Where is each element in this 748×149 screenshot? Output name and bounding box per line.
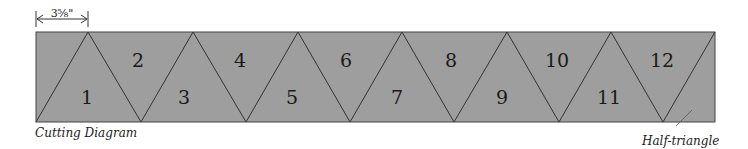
piece-label: 11: [597, 86, 621, 108]
half-triangle-label: Half-triangle: [641, 134, 719, 148]
piece-label: 10: [545, 49, 569, 71]
piece-label: 2: [132, 49, 144, 71]
piece-label: 5: [286, 86, 298, 108]
piece-label: 7: [391, 86, 403, 108]
dimension-label: 3⅝": [51, 7, 74, 20]
dimension-marker: 3⅝": [36, 7, 88, 27]
cutting-diagram: 3⅝" 123456789101112 Half-triangle Cuttin…: [0, 0, 748, 149]
piece-label: 12: [650, 49, 674, 71]
piece-label: 1: [81, 86, 93, 108]
piece-label: 9: [496, 86, 508, 108]
piece-label: 3: [178, 86, 190, 108]
piece-label: 4: [234, 49, 246, 71]
diagram-caption: Cutting Diagram: [35, 126, 137, 140]
piece-label: 8: [445, 49, 457, 71]
piece-label: 6: [340, 49, 352, 71]
